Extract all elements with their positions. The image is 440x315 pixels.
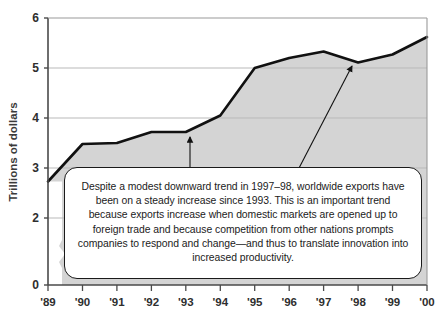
y-tick-label-3: 3 bbox=[32, 161, 39, 175]
y-tick-label-5: 5 bbox=[32, 61, 39, 75]
x-tick-label-96: '96 bbox=[281, 296, 297, 308]
y-tick-label-0: 0 bbox=[32, 278, 39, 292]
y-tick-label-2: 2 bbox=[32, 211, 39, 225]
x-tick-label-97: '97 bbox=[316, 296, 332, 308]
y-tick-label-4: 4 bbox=[32, 111, 39, 125]
callout-note-box: Despite a modest downward trend in 1997–… bbox=[64, 167, 422, 279]
x-tick-label-95: '95 bbox=[247, 296, 263, 308]
x-tick-label-98: '98 bbox=[350, 296, 366, 308]
y-axis-title: Trillions of dollars bbox=[7, 102, 19, 201]
x-tick-label-90: '90 bbox=[75, 296, 91, 308]
chart-figure: 6 5 4 3 2 0 Trillions of dollars '89 '90… bbox=[0, 0, 440, 315]
x-tick-label-89: '89 bbox=[40, 296, 56, 308]
x-tick-label-91: '91 bbox=[109, 296, 125, 308]
callout-note-text: Despite a modest downward trend in 1997–… bbox=[75, 180, 411, 265]
x-tick-label-94: '94 bbox=[213, 296, 229, 308]
x-tick-label-00: '00 bbox=[419, 296, 435, 308]
x-tick-label-93: '93 bbox=[178, 296, 194, 308]
y-tick-label-6: 6 bbox=[32, 11, 39, 25]
x-tick-label-99: '99 bbox=[385, 296, 401, 308]
x-tick-label-92: '92 bbox=[144, 296, 160, 308]
x-ticks bbox=[48, 285, 427, 291]
